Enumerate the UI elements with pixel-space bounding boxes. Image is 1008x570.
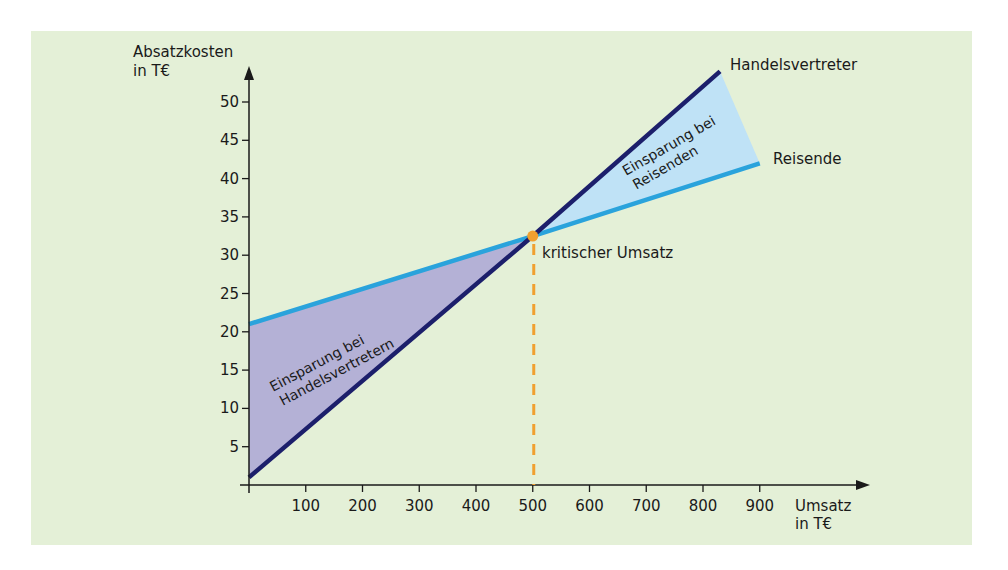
x-tick-label: 600: [575, 497, 604, 515]
y-tick-label: 35: [220, 208, 239, 226]
y-axis-label-line1: Absatzkosten: [133, 43, 233, 61]
x-tick-label: 900: [745, 497, 774, 515]
y-tick-label: 45: [220, 131, 239, 149]
x-axis-label-line1: Umsatz: [795, 497, 851, 515]
critical-point-marker-icon: [527, 231, 538, 242]
x-tick-label: 800: [689, 497, 718, 515]
x-tick-label: 200: [348, 497, 377, 515]
series-label-reisende: Reisende: [773, 150, 841, 168]
y-tick-label: 20: [220, 323, 239, 341]
y-axis-arrow-icon: [244, 66, 254, 80]
x-tick-label: 500: [518, 497, 547, 515]
y-axis-label-line2: in T€: [133, 62, 170, 80]
axes: [240, 66, 870, 493]
x-axis-label-line2: in T€: [795, 515, 832, 533]
series-label-handelsvertreter: Handelsvertreter: [730, 56, 858, 74]
critical-point-label: kritischer Umsatz: [542, 244, 673, 262]
y-tick-label: 30: [220, 246, 239, 264]
y-tick-label: 15: [220, 361, 239, 379]
line-handelsvertreter: [249, 71, 720, 477]
y-tick-label: 40: [220, 170, 239, 188]
y-tick-label: 10: [220, 399, 239, 417]
x-axis-arrow-icon: [856, 480, 870, 490]
annotations: [527, 231, 538, 485]
cost-comparison-chart: 1002003004005006007008009005101520253035…: [0, 0, 1008, 570]
x-tick-label: 300: [405, 497, 434, 515]
x-tick-label: 100: [291, 497, 320, 515]
y-tick-label: 5: [229, 438, 239, 456]
y-tick-label: 50: [220, 93, 239, 111]
line-reisende: [249, 163, 760, 324]
y-tick-label: 25: [220, 285, 239, 303]
x-tick-label: 700: [632, 497, 661, 515]
x-tick-label: 400: [462, 497, 491, 515]
